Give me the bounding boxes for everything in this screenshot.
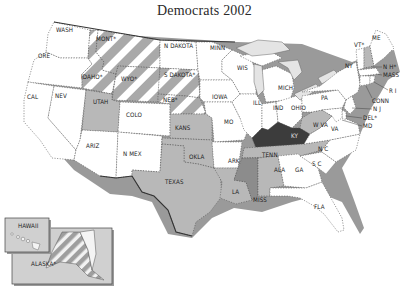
- label-cal: CAL: [27, 93, 39, 100]
- label-ore: ORE: [38, 52, 50, 59]
- state-colo[interactable]: [118, 102, 170, 136]
- label-texas: TEXAS: [164, 178, 184, 185]
- label-va: VA: [331, 125, 339, 132]
- label-wis: WIS: [237, 64, 248, 71]
- label-ala: ALA: [274, 166, 285, 173]
- label-sc: S C: [312, 160, 322, 167]
- label-mass: MASS: [383, 71, 399, 78]
- label-utah: UTAH: [93, 98, 108, 105]
- label-ohio: OHIO: [291, 104, 307, 111]
- state-ark[interactable]: [212, 142, 242, 168]
- label-tenn: TENN: [261, 151, 278, 158]
- label-ark: ARK: [228, 157, 240, 164]
- label-okla: OKLA: [189, 153, 205, 160]
- us-choropleth-map: WASH ORE CAL NEV IDAHO* MONT* WYO* UTAH …: [0, 0, 409, 288]
- label-sdakota: S DAKOTA*: [164, 71, 196, 78]
- label-nc: N C: [318, 145, 328, 152]
- label-ill: ILL: [253, 99, 262, 106]
- label-conn: CONN: [372, 97, 389, 104]
- state-wyo[interactable]: [112, 66, 160, 102]
- inset-hawaii[interactable]: HAWAII: [5, 218, 51, 254]
- label-ky: KY: [291, 132, 299, 139]
- label-la: LA: [232, 188, 239, 195]
- label-wva: W VA: [313, 121, 328, 128]
- label-minn: MINN: [210, 44, 225, 51]
- label-ny: NY: [345, 62, 353, 69]
- label-ga: GA: [295, 166, 303, 173]
- label-nj: N J: [373, 105, 381, 113]
- label-mont: MONT*: [96, 35, 116, 42]
- label-miss: MISS: [253, 196, 267, 203]
- label-mich: MICH: [278, 84, 293, 91]
- label-ndakota: N DAKOTA: [164, 42, 193, 49]
- label-vt: VT*: [354, 41, 364, 48]
- label-wash: WASH: [56, 26, 73, 33]
- label-hawaii: HAWAII: [18, 222, 39, 229]
- label-ind: IND: [273, 104, 283, 111]
- label-colo: COLO: [126, 111, 142, 118]
- label-kans: KANS: [175, 124, 191, 131]
- label-wyo: WYO*: [121, 75, 137, 82]
- label-nev: NEV: [55, 92, 67, 99]
- label-mo: MO: [224, 118, 234, 125]
- label-me: ME: [372, 34, 381, 41]
- label-fla: FLA: [314, 203, 325, 210]
- label-neb: NEB*: [163, 96, 178, 103]
- label-pa: PA: [321, 94, 328, 101]
- state-del[interactable]: [342, 110, 346, 120]
- label-alaska: ALASKA*: [31, 260, 56, 267]
- label-idaho: IDAHO*: [81, 73, 103, 80]
- label-md: MD: [363, 122, 372, 129]
- label-iowa: IOWA: [212, 93, 227, 100]
- label-del: DEL*: [363, 114, 377, 121]
- label-nh: N H*: [383, 63, 396, 70]
- label-ri: R I: [389, 87, 397, 94]
- label-nmex: N MEX: [123, 150, 142, 157]
- label-ariz: ARIZ: [86, 142, 100, 149]
